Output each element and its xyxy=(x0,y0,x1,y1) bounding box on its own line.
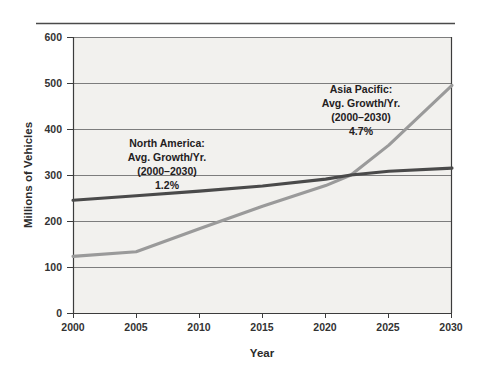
y-axis-title: Millions of Vehicles xyxy=(22,122,34,228)
x-tick-label-2030: 2030 xyxy=(439,321,463,333)
y-tick-label-100: 100 xyxy=(44,261,62,273)
x-tick-label-2020: 2020 xyxy=(313,321,337,333)
x-tick-label-2005: 2005 xyxy=(124,321,148,333)
y-tick-label-200: 200 xyxy=(44,215,62,227)
x-tick-label-2000: 2000 xyxy=(61,321,85,333)
plot-background xyxy=(73,37,452,313)
x-axis-title: Year xyxy=(250,347,275,359)
y-tick-label-500: 500 xyxy=(44,77,62,89)
y-tick-label-0: 0 xyxy=(56,307,62,319)
annotation-na-line-4: 1.2% xyxy=(155,179,180,191)
x-tick-label-2010: 2010 xyxy=(187,321,211,333)
x-tick-label-2025: 2025 xyxy=(376,321,400,333)
annotation-ap-line-1: Asia Pacific: xyxy=(330,83,392,95)
annotation-ap-line-2: Avg. Growth/Yr. xyxy=(322,97,400,109)
y-tick-label-400: 400 xyxy=(44,123,62,135)
line-chart: 600 500 400 300 200 100 0 2000 2005 2010… xyxy=(0,0,488,376)
y-tick-label-600: 600 xyxy=(44,31,62,43)
annotation-ap-line-3: (2000–2030) xyxy=(331,111,391,123)
x-tick-label-2015: 2015 xyxy=(250,321,274,333)
annotation-na-line-3: (2000–2030) xyxy=(137,165,197,177)
annotation-na-line-1: North America: xyxy=(129,137,204,149)
annotation-na-line-2: Avg. Growth/Yr. xyxy=(128,151,206,163)
y-tick-label-300: 300 xyxy=(44,169,62,181)
chart-figure: 600 500 400 300 200 100 0 2000 2005 2010… xyxy=(0,0,488,376)
annotation-ap-line-4: 4.7% xyxy=(349,125,374,137)
